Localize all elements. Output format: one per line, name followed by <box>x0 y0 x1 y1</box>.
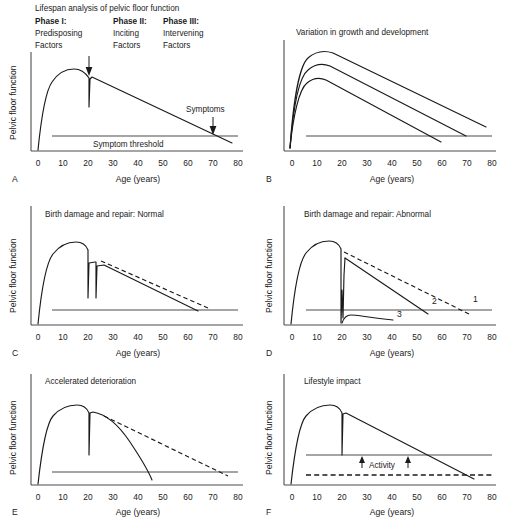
panel-d-svg: Birth damage and repair: Abnormal Pelvic… <box>256 190 512 362</box>
panel-d-tick-7: 70 <box>462 332 472 342</box>
pre-birth-function-curve <box>291 241 345 324</box>
panel-e-ylabel: Pelvic floor function <box>8 400 18 475</box>
panel-a-svg: Lifespan analysis of pelvic floor functi… <box>0 0 256 190</box>
panel-a-tick-1: 10 <box>58 158 68 168</box>
panel-d-title: Birth damage and repair: Abnormal <box>304 210 431 219</box>
symptoms-arrow-head <box>210 126 217 135</box>
panel-b-tick-2: 20 <box>337 158 347 168</box>
panel-d-ylabel: Pelvic floor function <box>264 238 274 313</box>
panel-d-tick-0: 0 <box>290 332 295 342</box>
panel-a-tick-3: 30 <box>108 158 118 168</box>
panel-b-tick-7: 70 <box>462 158 472 168</box>
panel-a-xlabel: Age (years) <box>116 174 161 184</box>
panel-b-tick-4: 40 <box>387 158 397 168</box>
panel-f-tick-1: 10 <box>312 492 322 502</box>
panel-a-title: Lifespan analysis of pelvic floor functi… <box>35 4 180 13</box>
panel-d: Birth damage and repair: Abnormal Pelvic… <box>256 190 512 362</box>
panel-c-tick-4: 40 <box>133 332 143 342</box>
low-peak-growth-curve <box>290 78 441 148</box>
panel-a-tick-7: 70 <box>208 158 218 168</box>
panel-f: Lifestyle impact Pelvic floor function A… <box>256 362 512 519</box>
panel-a-letter: A <box>12 174 18 184</box>
panel-f-tick-6: 60 <box>437 492 447 502</box>
panel-f-svg: Lifestyle impact Pelvic floor function A… <box>256 362 512 519</box>
phase-3-heading: Phase III: <box>163 17 199 26</box>
panel-e: Accelerated deterioration Pelvic floor f… <box>0 362 256 519</box>
panel-c-tick-1: 10 <box>58 332 68 342</box>
panel-d-tick-4: 40 <box>387 332 397 342</box>
panel-e-tick-0: 0 <box>36 492 41 502</box>
phase-2-heading: Phase II: <box>113 17 147 26</box>
panel-e-tick-5: 50 <box>158 492 168 502</box>
panel-a-tick-4: 40 <box>133 158 143 168</box>
panel-c-tick-8: 80 <box>233 332 243 342</box>
outcome-1-label: 1 <box>473 294 478 304</box>
panel-b-tick-6: 60 <box>437 158 447 168</box>
panel-c-tick-7: 70 <box>208 332 218 342</box>
outcome-1-dashed-curve <box>344 252 469 314</box>
panel-c-tick-0: 0 <box>36 332 41 342</box>
panel-b-xlabel: Age (years) <box>370 174 415 184</box>
outcome-2-curve <box>345 258 428 314</box>
panel-e-tick-7: 70 <box>208 492 218 502</box>
repair-dashed-curve <box>101 261 208 308</box>
panel-e-tick-6: 60 <box>183 492 193 502</box>
phase-3-line1: Intervening <box>163 29 204 38</box>
panel-d-tick-3: 30 <box>362 332 372 342</box>
pelvic-floor-function-two-births-curve <box>38 242 198 324</box>
activity-arrow-left-head <box>359 456 365 463</box>
panel-e-xlabel: Age (years) <box>116 507 161 517</box>
panel-d-tick-1: 10 <box>312 332 322 342</box>
panel-c-tick-3: 30 <box>108 332 118 342</box>
panel-b-title: Variation in growth and development <box>296 28 429 37</box>
panel-b: Variation in growth and development 0 10… <box>256 0 512 190</box>
panel-e-letter: E <box>12 507 18 517</box>
high-peak-growth-curve <box>290 51 486 148</box>
phase-1-line2: Factors <box>35 41 62 50</box>
panel-a-tick-2: 20 <box>83 158 93 168</box>
panel-b-tick-1: 10 <box>312 158 322 168</box>
panel-d-xlabel: Age (years) <box>370 348 415 358</box>
panel-e-tick-8: 80 <box>233 492 243 502</box>
panel-d-tick-6: 60 <box>437 332 447 342</box>
figure-root: Lifespan analysis of pelvic floor functi… <box>0 0 512 519</box>
activity-arrow-right-head <box>405 456 411 463</box>
phase-2-line2: Factors <box>113 41 140 50</box>
panel-e-svg: Accelerated deterioration Pelvic floor f… <box>0 362 256 519</box>
panel-a-ylabel: Pelvic floor function <box>8 65 18 140</box>
panel-e-tick-4: 40 <box>133 492 143 502</box>
panel-d-tick-8: 80 <box>487 332 497 342</box>
panel-a-tick-5: 50 <box>158 158 168 168</box>
phase-1-line1: Predisposing <box>35 29 83 38</box>
panel-e-tick-2: 20 <box>83 492 93 502</box>
panel-c: Birth damage and repair: Normal Pelvic f… <box>0 190 256 362</box>
panel-e-tick-3: 30 <box>108 492 118 502</box>
panel-f-tick-4: 40 <box>387 492 397 502</box>
panel-b-svg: Variation in growth and development 0 10… <box>256 0 512 190</box>
panel-c-svg: Birth damage and repair: Normal Pelvic f… <box>0 190 256 362</box>
panel-b-letter: B <box>266 174 272 184</box>
panel-b-tick-0: 0 <box>290 158 295 168</box>
normal-decline-dashed-curve <box>104 416 228 476</box>
panel-f-tick-3: 30 <box>362 492 372 502</box>
panel-e-title: Accelerated deterioration <box>45 377 136 386</box>
panel-f-ylabel: Pelvic floor function <box>264 400 274 475</box>
activity-label: Activity <box>369 461 396 470</box>
panel-f-xlabel: Age (years) <box>370 507 415 517</box>
panel-f-tick-5: 50 <box>412 492 422 502</box>
panel-a-tick-6: 60 <box>183 158 193 168</box>
panel-d-tick-2: 20 <box>337 332 347 342</box>
panel-f-title: Lifestyle impact <box>304 377 361 386</box>
panel-a: Lifespan analysis of pelvic floor functi… <box>0 0 256 190</box>
symptoms-label: Symptoms <box>186 105 225 114</box>
panel-f-tick-0: 0 <box>290 492 295 502</box>
panel-c-xlabel: Age (years) <box>116 348 161 358</box>
outcome-3-label: 3 <box>397 309 402 319</box>
panel-c-ylabel: Pelvic floor function <box>8 238 18 313</box>
panel-c-tick-5: 50 <box>158 332 168 342</box>
panel-b-tick-8: 80 <box>487 158 497 168</box>
panel-f-letter: F <box>266 507 271 517</box>
panel-b-tick-3: 30 <box>362 158 372 168</box>
panel-a-tick-0: 0 <box>36 158 41 168</box>
panel-c-tick-6: 60 <box>183 332 193 342</box>
